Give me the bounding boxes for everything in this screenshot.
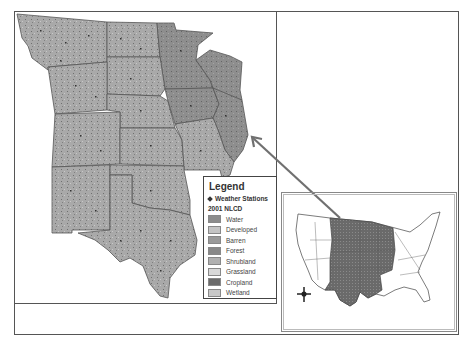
swatch-icon (208, 226, 221, 234)
legend-nlcd-title: 2001 NLCD (208, 205, 272, 212)
swatch-icon (208, 278, 221, 286)
state-colorado (52, 112, 120, 167)
legend-items: Water Developed Barren Forest Shrubland … (208, 214, 272, 298)
state-new-mexico (52, 165, 110, 233)
legend-title: Legend (209, 181, 272, 192)
swatch-icon (208, 247, 221, 255)
state-montana (17, 14, 107, 70)
state-north-dakota (107, 22, 160, 57)
legend-item-water: Water (208, 214, 272, 225)
state-wyoming (48, 62, 107, 114)
legend-item-developed: Developed (208, 225, 272, 236)
swatch-icon (208, 215, 221, 223)
legend-stations-label: Weather Stations (215, 195, 268, 202)
swatch-icon (208, 257, 221, 265)
legend-item-shrubland: Shrubland (208, 256, 272, 267)
inset-map-frame (281, 192, 457, 332)
swatch-icon (208, 268, 221, 276)
legend-item-grassland: Grassland (208, 267, 272, 278)
legend-item-wetland: Wetland (208, 288, 272, 299)
state-south-dakota (107, 57, 165, 96)
legend-item-cropland: Cropland (208, 277, 272, 288)
state-kansas (120, 128, 184, 166)
legend-weather-stations: Weather Stations (208, 195, 272, 202)
legend-item-barren: Barren (208, 235, 272, 246)
swatch-icon (208, 236, 221, 244)
swatch-icon (208, 289, 221, 297)
legend-item-forest: Forest (208, 246, 272, 257)
map-legend: Legend Weather Stations 2001 NLCD Water … (203, 176, 277, 299)
station-marker-icon (207, 196, 213, 202)
